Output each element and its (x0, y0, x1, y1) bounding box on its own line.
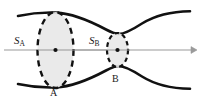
label-point-a: A (50, 88, 57, 98)
center-dot-a (53, 48, 57, 52)
label-section-a-subscript: A (20, 39, 26, 48)
flux-tube-figure: SA SB A B (0, 0, 202, 103)
label-section-b: SB (89, 35, 100, 47)
figure-canvas (0, 0, 202, 103)
label-section-a: SA (14, 35, 25, 47)
label-point-b: B (112, 74, 119, 84)
center-dot-b (115, 48, 119, 52)
label-section-b-subscript: B (95, 39, 100, 48)
